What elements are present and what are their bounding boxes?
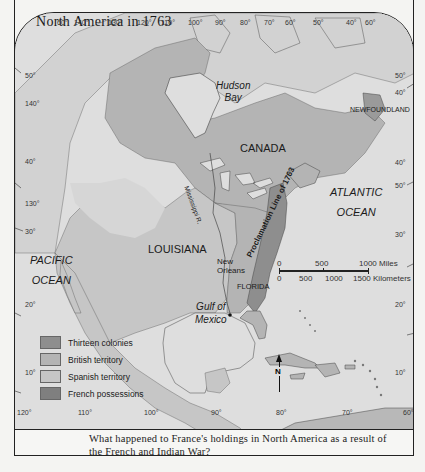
lon-top-6: 90° bbox=[215, 19, 226, 26]
lon-top-11: 40° bbox=[346, 19, 357, 26]
lon-top-3: 120° bbox=[137, 19, 151, 26]
label-newfoundland: NEWFOUNDLAND bbox=[350, 106, 410, 113]
lon-top-8: 70° bbox=[264, 19, 275, 26]
scale-miles-500: 500 bbox=[315, 259, 328, 268]
atlantic-line2: OCEAN bbox=[330, 202, 382, 222]
arrow-head bbox=[276, 354, 282, 362]
lat-left-4: 30° bbox=[25, 228, 36, 235]
new-orleans-line1: New bbox=[217, 257, 245, 266]
lon-top-7: 80° bbox=[240, 19, 251, 26]
lon-bottom-5: 70° bbox=[342, 409, 353, 416]
scale-bar: 0 500 1000 Miles 0 500 1000 1500 Kilomet… bbox=[277, 259, 425, 299]
atlantic-line1: ATLANTIC bbox=[330, 182, 382, 202]
label-gulf-of-mexico: Gulf of Mexico bbox=[195, 300, 227, 326]
scale-line bbox=[279, 270, 369, 272]
gulf-line1: Gulf of bbox=[195, 300, 227, 313]
lon-top-0: 60° bbox=[57, 19, 68, 26]
legend-item-french-possessions: French possessions bbox=[40, 385, 144, 402]
lon-bottom-6: 60° bbox=[403, 409, 414, 416]
legend-swatch bbox=[40, 336, 61, 349]
caption-question: What happened to France's holdings in No… bbox=[89, 433, 389, 458]
scale-miles-1000: 1000 Miles bbox=[359, 259, 398, 268]
label-pacific-ocean: PACIFIC OCEAN bbox=[30, 250, 73, 290]
lat-left-5: 20° bbox=[25, 301, 36, 308]
lat-right-4: 30° bbox=[395, 231, 406, 238]
label-atlantic-ocean: ATLANTIC OCEAN bbox=[330, 182, 382, 222]
legend-item-thirteen-colonies: Thirteen colonies bbox=[40, 334, 144, 351]
compass-label: N bbox=[275, 367, 281, 376]
lat-left-0: 50° bbox=[25, 72, 36, 79]
caption-box: What happened to France's holdings in No… bbox=[14, 429, 414, 457]
label-florida: FLORIDA bbox=[237, 282, 270, 291]
lat-right-2: 40° bbox=[395, 159, 406, 166]
label-louisiana: LOUISIANA bbox=[148, 243, 207, 255]
lat-left-2: 40° bbox=[25, 158, 36, 165]
legend-label: Spanish territory bbox=[68, 372, 130, 382]
lon-bottom-2: 100° bbox=[144, 409, 158, 416]
pacific-line2: OCEAN bbox=[30, 270, 73, 290]
legend-label: Thirteen colonies bbox=[68, 338, 133, 348]
lon-top-5: 100° bbox=[188, 19, 202, 26]
scale-km-500: 500 bbox=[299, 274, 312, 283]
lat-right-6: 10° bbox=[395, 369, 406, 376]
label-hudson-bay: Hudson Bay bbox=[216, 80, 250, 104]
hudson-bay-line1: Hudson bbox=[216, 80, 250, 92]
lon-bottom-0: 120° bbox=[17, 409, 31, 416]
legend-swatch bbox=[40, 353, 61, 366]
lon-bottom-1: 110° bbox=[78, 409, 92, 416]
scale-km-1000: 1000 bbox=[325, 274, 343, 283]
lon-top-10: 50° bbox=[313, 19, 324, 26]
label-new-orleans: New Orleans bbox=[217, 257, 245, 275]
scale-km-1500: 1500 Kilometers bbox=[353, 274, 411, 283]
legend-label: British territory bbox=[68, 355, 123, 365]
north-arrow-icon: N bbox=[274, 354, 284, 394]
pacific-line1: PACIFIC bbox=[30, 250, 73, 270]
legend-item-british-territory: British territory bbox=[40, 351, 144, 368]
lon-top-2: 130° bbox=[108, 19, 122, 26]
lat-left-6: 10° bbox=[25, 369, 36, 376]
lat-left-1: 140° bbox=[25, 100, 39, 107]
legend-swatch bbox=[40, 387, 61, 400]
lon-top-12: 60° bbox=[365, 19, 376, 26]
legend-item-spanish-territory: Spanish territory bbox=[40, 368, 144, 385]
legend-swatch bbox=[40, 370, 61, 383]
label-canada: CANADA bbox=[240, 142, 286, 154]
lat-right-3: 50° bbox=[395, 182, 406, 189]
lon-top-4: 110° bbox=[161, 19, 175, 26]
lon-top-9: 60° bbox=[285, 19, 296, 26]
legend-label: French possessions bbox=[68, 389, 144, 399]
lon-top-1: 140° bbox=[74, 19, 88, 26]
lat-right-5: 20° bbox=[395, 301, 406, 308]
scale-km-0: 0 bbox=[277, 274, 281, 283]
gulf-line2: Mexico bbox=[195, 313, 227, 326]
scale-tick bbox=[323, 268, 324, 272]
hudson-bay-line2: Bay bbox=[216, 92, 250, 104]
lon-bottom-4: 80° bbox=[276, 409, 287, 416]
scale-miles-0: 0 bbox=[277, 259, 281, 268]
lon-bottom-3: 90° bbox=[211, 409, 222, 416]
map-legend: Thirteen colonies British territory Span… bbox=[40, 334, 144, 402]
lat-left-3: 130° bbox=[25, 200, 39, 207]
lat-right-0: 50° bbox=[395, 72, 406, 79]
lat-right-1: 40° bbox=[395, 89, 406, 96]
new-orleans-line2: Orleans bbox=[217, 266, 245, 275]
